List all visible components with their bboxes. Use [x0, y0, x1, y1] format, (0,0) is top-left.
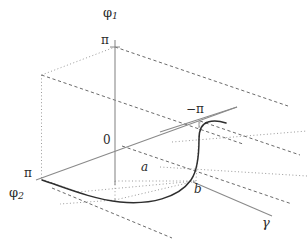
dashed-top-plane-right-edge	[115, 47, 288, 106]
dotted-base-lower-right	[115, 181, 196, 200]
origin-label: 0	[103, 134, 111, 146]
dashed-mid-plane-upper	[200, 121, 300, 155]
gamma-axis-label: γ	[262, 216, 270, 229]
dotted-base-top-edge	[78, 181, 196, 192]
phi2-pi-tick-label: π	[24, 167, 32, 179]
minus-pi-label: −π	[186, 103, 204, 115]
phi1-pi-tick-label: π	[101, 34, 109, 46]
gamma-axis-line	[193, 182, 272, 216]
point-b-label: b	[194, 183, 202, 195]
phi2-axis-label: φ2	[9, 186, 24, 201]
dashed-mid-plane-lower	[122, 146, 292, 204]
phi1-axis-label: φ1	[103, 6, 118, 21]
dotted-right-plane-lower	[160, 167, 307, 176]
point-a-label: a	[141, 161, 148, 173]
base-horizontal-axis	[36, 107, 237, 180]
coordinate-diagram	[0, 0, 308, 240]
dotted-top-back-edge	[42, 47, 116, 75]
dotted-right-plane-upper	[172, 131, 307, 142]
dashed-bottom-plane-edge	[52, 188, 172, 238]
dashed-top-plane-front-edge	[42, 75, 244, 144]
